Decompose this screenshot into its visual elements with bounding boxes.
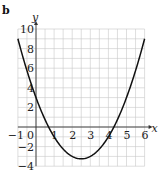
x-tick-label: 6 xyxy=(142,129,149,142)
y-tick-label: −2 xyxy=(18,141,34,154)
x-axis-label: x xyxy=(152,122,159,135)
x-tick-label: 2 xyxy=(69,129,76,142)
x-tick-label: 3 xyxy=(87,129,94,142)
chart: b xy −10123456−4−2246810 xyxy=(0,0,165,179)
part-label: b xyxy=(2,4,10,17)
axes: xy xyxy=(18,11,159,166)
x-tick-label: 5 xyxy=(124,129,131,142)
tick-labels: −10123456−4−2246810 xyxy=(8,23,149,173)
y-tick-label: −4 xyxy=(18,160,34,173)
grid xyxy=(18,29,145,166)
y-tick-label: 10 xyxy=(20,23,34,36)
y-tick-label: 8 xyxy=(27,43,34,56)
y-tick-label: 2 xyxy=(27,101,34,114)
